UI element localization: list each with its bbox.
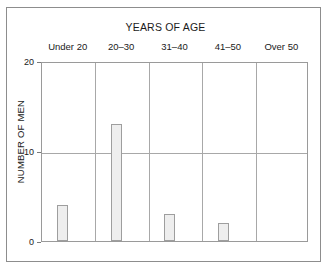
vertical-gridline-2 xyxy=(149,63,150,241)
y-tick-label-10: 10 xyxy=(8,148,34,157)
bar-1 xyxy=(111,124,122,241)
chart-title: YEARS OF AGE xyxy=(0,21,331,33)
category-label-4: Over 50 xyxy=(255,40,308,54)
category-label-0: Under 20 xyxy=(41,40,94,54)
vertical-gridline-4 xyxy=(256,63,257,241)
vertical-gridline-1 xyxy=(95,63,96,241)
vertical-gridline-3 xyxy=(202,63,203,241)
bar-0 xyxy=(57,205,68,241)
category-label-1: 20–30 xyxy=(94,40,147,54)
bar-chart-figure: YEARS OF AGE Under 2020–3031–4041–50Over… xyxy=(0,0,331,273)
bar-3 xyxy=(218,223,229,241)
plot-area xyxy=(41,62,308,242)
horizontal-gridline-10 xyxy=(42,153,307,154)
y-tick-label-20: 20 xyxy=(8,58,34,67)
category-label-3: 41–50 xyxy=(201,40,254,54)
y-tick-mark-10 xyxy=(37,152,41,153)
y-axis-title: NUMBER OF MEN xyxy=(15,82,26,202)
y-tick-mark-20 xyxy=(37,62,41,63)
bar-2 xyxy=(164,214,175,241)
category-label-2: 31–40 xyxy=(148,40,201,54)
category-label-row: Under 2020–3031–4041–50Over 50 xyxy=(41,40,308,54)
y-tick-mark-0 xyxy=(37,242,41,243)
y-tick-label-0: 0 xyxy=(8,238,34,247)
